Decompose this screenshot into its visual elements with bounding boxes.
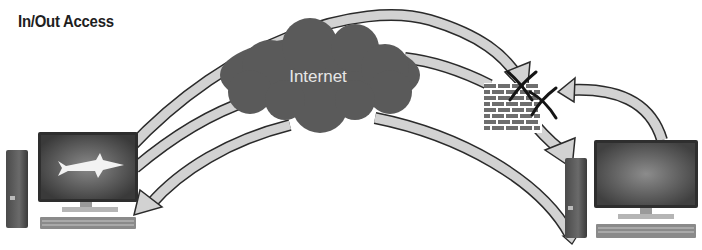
right-computer xyxy=(565,140,698,238)
cloud-label: Internet xyxy=(289,67,347,86)
brick-wall-icon xyxy=(484,83,542,133)
flow-arrow-right-to-firewall xyxy=(558,78,662,140)
left-computer xyxy=(6,132,138,229)
desktop-computer-icon xyxy=(6,132,138,229)
flow-arrow-internet-to-left xyxy=(134,125,290,215)
network-diagram: Internet xyxy=(0,0,702,250)
desktop-computer-icon xyxy=(565,140,698,238)
flow-arrow-left-to-internet xyxy=(135,100,250,168)
